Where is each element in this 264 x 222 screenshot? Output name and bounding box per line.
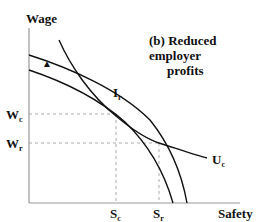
x-axis-label: Safety — [218, 207, 253, 220]
ir-label: Ir — [113, 86, 122, 102]
wc-label: Wc — [6, 108, 23, 124]
direction-arrow-icon: ▲ — [42, 59, 52, 69]
sr-label: Sr — [153, 207, 164, 222]
inner-profit-curve — [29, 70, 173, 203]
panel-title: (b) Reduced employer profits — [149, 33, 264, 78]
diagram: Wage Safety (b) Reduced employer profits… — [0, 0, 264, 222]
uc-label: Uc — [212, 153, 225, 169]
sc-label: Sc — [110, 207, 121, 222]
title-line2: profits — [149, 63, 204, 78]
y-axis-label: Wage — [26, 12, 57, 25]
wr-label: Wr — [6, 137, 23, 153]
title-prefix: (b) — [149, 33, 165, 48]
